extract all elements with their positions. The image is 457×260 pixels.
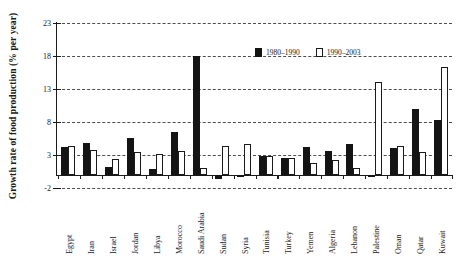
bar-qatar-series1 (412, 109, 419, 174)
bar-sudan-series1 (215, 175, 222, 179)
bar-sudan-series2 (222, 146, 229, 175)
bar-egypt-series1 (61, 147, 68, 175)
x-tick-17 (431, 175, 432, 179)
x-label-palestine: Palestine (372, 225, 381, 254)
x-label-saudi-arabia: Saudi Arabia (197, 212, 206, 254)
y-tick-label-3: 3 (31, 151, 51, 160)
x-label-turkey: Turkey (284, 231, 293, 254)
bar-syria-series2 (244, 144, 251, 175)
bar-lebanon-series1 (346, 144, 353, 174)
gridline-23 (57, 23, 452, 24)
x-label-qatar: Qatar (416, 236, 425, 254)
x-tick-10 (277, 175, 278, 179)
bar-yemen-series2 (310, 163, 317, 175)
bar-egypt-series2 (68, 146, 75, 174)
bar-libya-series1 (149, 169, 156, 175)
legend-item-2: 1990–2003 (316, 48, 361, 57)
y-tick-label-18: 18 (31, 52, 51, 61)
bar-kuwait-series2 (441, 67, 448, 175)
bar-syria-series1 (237, 175, 244, 177)
bar-tunisia-series2 (266, 156, 273, 175)
x-tick-9 (256, 175, 257, 179)
bar-morocco-series2 (178, 151, 185, 175)
legend-swatch-filled-icon (255, 48, 262, 57)
x-label-egypt: Egypt (65, 235, 74, 254)
bar-iran-series2 (90, 150, 97, 174)
y-tick-13 (53, 89, 61, 90)
gridline-8 (57, 122, 452, 123)
bar-chart-figure: Growth rate of food production (% per ye… (0, 0, 457, 260)
y-tick-18 (53, 56, 61, 57)
x-tick-0 (58, 175, 59, 179)
x-tick-16 (409, 175, 410, 179)
x-tick-15 (387, 175, 388, 179)
bar-jordan-series1 (127, 138, 134, 175)
y-tick-label-13: 13 (31, 85, 51, 94)
x-tick-13 (343, 175, 344, 179)
x-label-algeria: Algeria (328, 230, 337, 254)
y-tick--2 (53, 188, 61, 189)
y-axis-title: Growth rate of food production (% per ye… (8, 11, 24, 201)
x-label-oman: Oman (394, 234, 403, 254)
y-tick-3 (53, 155, 61, 156)
x-label-tunisia: Tunisia (262, 230, 271, 254)
x-tick-6 (190, 175, 191, 179)
x-label-kuwait: Kuwait (438, 230, 447, 254)
x-tick-end (452, 175, 453, 179)
gridline-13 (57, 89, 452, 90)
bar-jordan-series2 (134, 152, 141, 174)
x-label-libya: Libya (153, 235, 162, 254)
bar-oman-series1 (390, 148, 397, 175)
bar-libya-series2 (156, 154, 163, 175)
x-tick-7 (212, 175, 213, 179)
bar-palestine-series2 (375, 82, 382, 174)
bar-turkey-series1 (281, 158, 288, 175)
bar-kuwait-series1 (434, 120, 441, 175)
x-tick-11 (299, 175, 300, 179)
x-tick-1 (80, 175, 81, 179)
x-tick-5 (168, 175, 169, 179)
bar-algeria-series1 (325, 151, 332, 175)
x-label-yemen: Yemen (306, 232, 315, 254)
legend-label-1: 1980–1990 (266, 48, 300, 57)
x-tick-3 (124, 175, 125, 179)
bar-algeria-series2 (332, 160, 339, 175)
y-tick-label-23: 23 (31, 19, 51, 28)
bar-yemen-series1 (303, 147, 310, 175)
bar-iran-series1 (83, 143, 90, 175)
bar-saudi-arabia-series1 (193, 56, 200, 175)
y-tick-label--2: -2 (31, 184, 51, 193)
x-label-lebanon: Lebanon (350, 226, 359, 254)
bar-palestine-series1 (368, 175, 375, 177)
y-tick-23 (53, 23, 61, 24)
x-tick-8 (234, 175, 235, 179)
x-label-morocco: Morocco (175, 225, 184, 254)
x-label-israel: Israel (109, 236, 118, 254)
x-label-syria: Syria (241, 237, 250, 254)
x-label-jordan: Jordan (131, 233, 140, 254)
bar-israel-series2 (112, 159, 119, 175)
x-tick-14 (365, 175, 366, 179)
y-tick-label-8: 8 (31, 118, 51, 127)
x-tick-2 (102, 175, 103, 179)
bar-oman-series2 (397, 146, 404, 175)
x-tick-4 (146, 175, 147, 179)
bar-israel-series1 (105, 167, 112, 175)
x-label-iran: Iran (87, 241, 96, 254)
bar-saudi-arabia-series2 (200, 168, 207, 175)
legend-label-2: 1990–2003 (327, 48, 361, 57)
gridline--2 (57, 188, 452, 189)
legend-swatch-outline-icon (316, 48, 323, 57)
bar-lebanon-series2 (353, 168, 360, 175)
bar-morocco-series1 (171, 132, 178, 175)
bar-turkey-series2 (288, 158, 295, 175)
legend-item-1: 1980–1990 (255, 48, 300, 57)
bar-tunisia-series1 (259, 156, 266, 175)
bar-qatar-series2 (419, 152, 426, 175)
x-tick-12 (321, 175, 322, 179)
y-tick-8 (53, 122, 61, 123)
chart-legend: 1980–1990 1990–2003 (255, 48, 361, 57)
x-label-sudan: Sudan (219, 234, 228, 254)
